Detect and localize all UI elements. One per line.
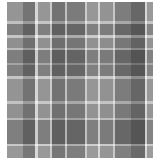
vertical-stripe: [38, 2, 50, 158]
vertical-stripe: [147, 2, 153, 158]
vertical-stripe: [100, 2, 113, 158]
vertical-stripe: [87, 2, 98, 158]
vertical-stripe: [23, 2, 35, 158]
vertical-stripe: [115, 2, 131, 158]
vertical-stripe: [67, 2, 85, 158]
image-canvas: [0, 0, 157, 164]
vertical-stripe: [131, 2, 145, 158]
vertical-stripe: [7, 2, 23, 158]
vertical-stripe: [52, 2, 65, 158]
plaid-fabric-swatch: [7, 2, 153, 158]
